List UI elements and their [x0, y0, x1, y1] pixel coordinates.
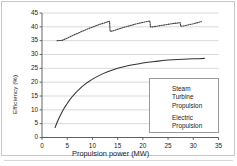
x-tick-label: 10: [82, 142, 102, 149]
legend-label-line: Turbine: [172, 93, 193, 100]
x-tick-label: 0: [32, 142, 52, 149]
x-tick-label: 15: [108, 142, 128, 149]
x-tick-label: 20: [133, 142, 153, 149]
y-tick-label: 45: [16, 9, 38, 16]
chart-figure: 051015202530354045 05101520253035 Effici…: [0, 0, 237, 166]
x-tick-label: 5: [57, 142, 77, 149]
legend-label-line: Steam: [172, 85, 190, 92]
y-tick-label: 35: [16, 36, 38, 43]
x-axis-label: Propulsion power (MW): [72, 149, 149, 158]
y-axis-label: Efficiency (%): [11, 74, 18, 113]
y-tick-label: 30: [16, 50, 38, 57]
legend-label-line: Electric: [172, 114, 193, 121]
y-tick-label: 0: [16, 133, 38, 140]
y-tick-label: 20: [16, 78, 38, 85]
x-tick-label: 35: [209, 142, 229, 149]
y-tick-label: 5: [16, 119, 38, 126]
series-line-2: [57, 21, 201, 41]
x-tick-label: 25: [158, 142, 178, 149]
y-tick-label: 15: [16, 92, 38, 99]
x-tick-label: 30: [183, 142, 203, 149]
legend-label-line: Propulsion: [172, 122, 202, 129]
legend-label-line: Propulsion: [172, 102, 202, 109]
y-tick-label: 25: [16, 64, 38, 71]
y-tick-label: 40: [16, 23, 38, 30]
y-tick-label: 10: [16, 106, 38, 113]
